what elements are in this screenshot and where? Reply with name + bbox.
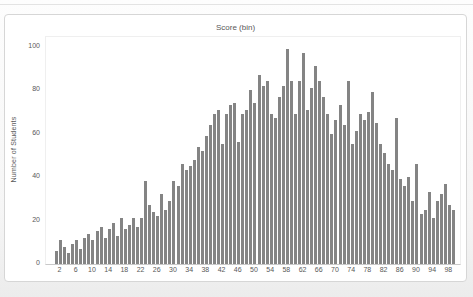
bar <box>124 229 127 264</box>
bar <box>67 253 70 264</box>
x-tick-label: 22 <box>137 266 145 273</box>
y-tick-label: 20 <box>5 216 40 223</box>
bar <box>193 160 196 264</box>
bar <box>266 81 269 264</box>
bar <box>403 186 406 264</box>
bar <box>233 103 236 264</box>
x-tick-label: 18 <box>120 266 128 273</box>
x-tick-label: 58 <box>282 266 290 273</box>
bar <box>270 114 273 264</box>
bar <box>100 227 103 264</box>
y-tick-label: 60 <box>5 129 40 136</box>
bar <box>399 179 402 264</box>
bar <box>181 164 184 264</box>
x-tick-label: 34 <box>185 266 193 273</box>
bar <box>452 210 455 264</box>
bar <box>375 123 378 264</box>
bar <box>217 110 220 264</box>
x-tick-label: 46 <box>234 266 242 273</box>
x-tick-label: 6 <box>74 266 78 273</box>
bar <box>160 194 163 264</box>
y-axis-title: Number of Students <box>10 80 17 220</box>
bar <box>343 125 346 264</box>
bar <box>75 240 78 264</box>
bar <box>225 114 228 264</box>
bar <box>367 112 370 264</box>
bar <box>128 225 131 264</box>
bar <box>371 92 374 264</box>
bar <box>177 186 180 264</box>
bar <box>59 240 62 264</box>
bar <box>290 81 293 264</box>
x-tick-label: 54 <box>266 266 274 273</box>
bar <box>112 223 115 264</box>
bar <box>411 201 414 264</box>
bar <box>237 142 240 264</box>
bar <box>286 49 289 264</box>
bar <box>140 218 143 264</box>
bar <box>274 118 277 264</box>
bar <box>136 227 139 264</box>
x-tick-label: 94 <box>428 266 436 273</box>
x-tick-label: 86 <box>396 266 404 273</box>
bar <box>205 136 208 264</box>
bar <box>318 81 321 264</box>
bar <box>201 151 204 264</box>
bar <box>330 134 333 265</box>
x-tick-label: 78 <box>363 266 371 273</box>
bar <box>432 218 435 264</box>
chart-title: Score (bin) <box>5 23 466 32</box>
bar <box>87 234 90 264</box>
bar <box>302 53 305 264</box>
x-tick-label: 82 <box>380 266 388 273</box>
bar <box>444 184 447 264</box>
bar <box>83 238 86 264</box>
bar <box>294 114 297 264</box>
plot-area <box>45 36 461 265</box>
bar <box>383 153 386 264</box>
bar <box>379 144 382 264</box>
bar <box>91 240 94 264</box>
x-tick-label: 90 <box>412 266 420 273</box>
bar <box>96 231 99 264</box>
bar <box>428 192 431 264</box>
x-tick-label: 26 <box>153 266 161 273</box>
y-tick-label: 40 <box>5 172 40 179</box>
bar <box>185 170 188 264</box>
bar <box>189 166 192 264</box>
bar <box>120 218 123 264</box>
x-tick-label: 66 <box>315 266 323 273</box>
bar <box>347 81 350 264</box>
bar <box>440 194 443 264</box>
bar <box>63 247 66 264</box>
bar <box>351 144 354 264</box>
bar <box>172 181 175 264</box>
bar <box>79 249 82 264</box>
bar <box>298 81 301 264</box>
y-tick-label: 100 <box>5 42 40 49</box>
x-tick-label: 74 <box>347 266 355 273</box>
bar <box>71 244 74 264</box>
bar <box>306 110 309 264</box>
bar <box>241 114 244 264</box>
bar <box>387 164 390 264</box>
bar <box>245 110 248 264</box>
bar <box>391 170 394 264</box>
bar <box>355 131 358 264</box>
bar <box>314 66 317 264</box>
bar <box>209 125 212 264</box>
bar <box>253 103 256 264</box>
x-tick-label: 50 <box>250 266 258 273</box>
bar <box>420 214 423 264</box>
bar <box>359 114 362 264</box>
bar <box>104 238 107 264</box>
bar <box>334 120 337 264</box>
bar <box>363 120 366 264</box>
bar <box>339 105 342 264</box>
bar <box>164 210 167 264</box>
bar <box>436 201 439 264</box>
x-tick-label: 30 <box>169 266 177 273</box>
bar <box>258 75 261 264</box>
x-tick-label: 10 <box>88 266 96 273</box>
bar <box>262 86 265 264</box>
